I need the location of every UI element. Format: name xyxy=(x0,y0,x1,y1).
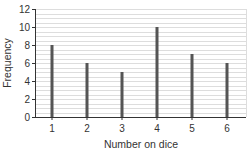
y-axis-label: Frequency xyxy=(1,37,13,87)
x-axis-ticks: 123456 xyxy=(49,117,230,134)
x-tick-label: 6 xyxy=(224,123,230,134)
y-tick-label: 2 xyxy=(24,94,30,105)
y-tick-label: 0 xyxy=(24,112,30,123)
bar-6 xyxy=(226,63,229,117)
y-tick-label: 4 xyxy=(24,76,30,87)
frequency-bar-chart: 024681012 123456 Number on dice Frequenc… xyxy=(0,0,249,154)
x-axis-label: Number on dice xyxy=(104,138,178,150)
bar-3 xyxy=(121,72,124,117)
y-axis-ticks: 024681012 xyxy=(19,4,35,123)
bar-4 xyxy=(156,27,159,117)
x-tick-label: 5 xyxy=(189,123,195,134)
x-tick-label: 2 xyxy=(84,123,90,134)
bar-2 xyxy=(86,63,89,117)
bar-1 xyxy=(51,45,54,117)
y-tick-label: 8 xyxy=(24,40,30,51)
bar-5 xyxy=(191,54,194,117)
y-tick-label: 12 xyxy=(19,4,31,15)
x-tick-label: 4 xyxy=(154,123,160,134)
gridlines xyxy=(35,9,247,117)
y-tick-label: 6 xyxy=(24,58,30,69)
x-tick-label: 3 xyxy=(119,123,125,134)
y-tick-label: 10 xyxy=(19,22,31,33)
x-tick-label: 1 xyxy=(49,123,55,134)
